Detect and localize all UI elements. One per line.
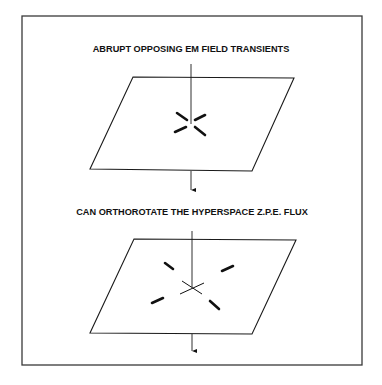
field-dash-upper-left: [177, 113, 187, 120]
panel-bottom-title: CAN ORTHOROTATE THE HYPERSPACE Z.P.E. FL…: [76, 207, 308, 217]
panel-top: ABRUPT OPPOSING EM FIELD TRANSIENTS: [90, 44, 294, 190]
panel-top-plane: [90, 77, 294, 171]
diagram: ABRUPT OPPOSING EM FIELD TRANSIENTS CAN …: [0, 0, 382, 385]
flux-dash-lower-left: [152, 298, 163, 303]
panel-bottom-plane: [90, 239, 296, 334]
panel-bottom-flux-marks: [152, 263, 233, 309]
flux-dash-lower-right: [210, 301, 219, 309]
flux-dash-upper-left: [165, 263, 173, 269]
field-dash-lower-right: [195, 127, 205, 135]
field-dash-lower-left: [175, 127, 186, 132]
panel-bottom: CAN ORTHOROTATE THE HYPERSPACE Z.P.E. FL…: [76, 207, 308, 351]
figure-frame: [22, 16, 362, 365]
flux-dash-upper-right: [222, 266, 233, 271]
panel-top-title: ABRUPT OPPOSING EM FIELD TRANSIENTS: [93, 44, 290, 54]
panel-top-field-marks: [175, 113, 205, 135]
field-dash-upper-right: [195, 115, 205, 120]
